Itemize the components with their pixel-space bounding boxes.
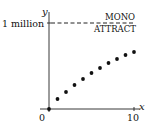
data-point xyxy=(107,61,111,65)
data-point xyxy=(64,90,68,94)
line-label-bottom: ATTRACT xyxy=(93,24,136,34)
data-points xyxy=(47,50,136,111)
data-point xyxy=(81,77,85,81)
data-point xyxy=(98,66,102,70)
data-point xyxy=(73,83,77,87)
line-label-top: MONO xyxy=(105,12,135,22)
x-tick-label-10: 10 xyxy=(127,112,139,122)
y-axis-label: y xyxy=(41,6,48,17)
data-point xyxy=(124,53,128,57)
data-point xyxy=(56,97,60,101)
data-point xyxy=(115,57,119,61)
x-axis-label: x xyxy=(139,101,145,112)
y-tick-label: 1 million xyxy=(2,18,44,29)
scatter-chart: y x 1 million 0 10 MONO ATTRACT xyxy=(0,0,150,122)
data-point xyxy=(132,50,136,54)
data-point xyxy=(47,107,51,111)
x-tick-label-0: 0 xyxy=(39,112,45,122)
data-point xyxy=(90,71,94,75)
